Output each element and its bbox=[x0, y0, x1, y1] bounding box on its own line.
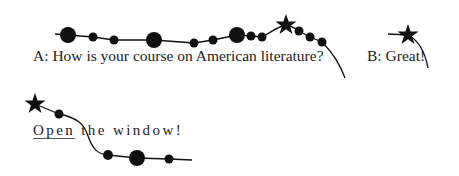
utterance-a: A: How is your course on American litera… bbox=[33, 47, 324, 65]
unstressed-dot bbox=[89, 33, 98, 42]
intonation-diagram: A: How is your course on American litera… bbox=[0, 0, 459, 176]
utterance-c: Open the window! bbox=[33, 122, 183, 139]
unstressed-dot bbox=[258, 33, 267, 42]
utterance-c-rest: the window! bbox=[75, 122, 183, 138]
stressed-dot bbox=[129, 150, 145, 166]
underlined-word: Open bbox=[33, 122, 75, 138]
unstressed-dot bbox=[103, 150, 113, 160]
star-icon bbox=[276, 14, 297, 34]
utterance-b: B: Great! bbox=[367, 47, 425, 65]
unstressed-dot bbox=[165, 155, 174, 164]
unstressed-dot bbox=[110, 36, 119, 45]
unstressed-dot bbox=[209, 36, 218, 45]
stressed-dot bbox=[60, 27, 76, 43]
stressed-dot bbox=[146, 32, 162, 48]
unstressed-dot bbox=[306, 33, 315, 42]
intonation-contours bbox=[0, 0, 459, 176]
unstressed-dot bbox=[55, 110, 64, 119]
unstressed-dot bbox=[295, 27, 304, 36]
star-icon bbox=[25, 93, 46, 113]
stressed-dot bbox=[229, 27, 245, 43]
unstressed-dot bbox=[247, 32, 256, 41]
contour-a-question bbox=[55, 14, 345, 78]
unstressed-dot bbox=[318, 38, 327, 47]
